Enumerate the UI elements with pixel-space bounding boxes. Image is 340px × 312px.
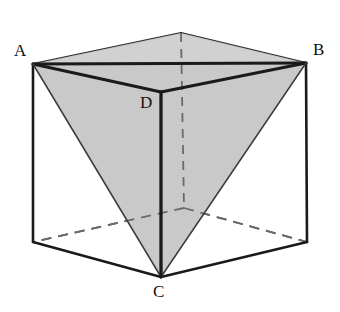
hidden-edge-bottom-right-overlay <box>184 208 307 242</box>
vertex-label-b: B <box>313 41 324 58</box>
tetrahedron-shaded-faces <box>33 33 306 277</box>
vertex-label-c: C <box>153 283 164 300</box>
geometry-figure: A B C D <box>0 0 340 312</box>
cube-edge-bottom-front-left <box>33 242 161 277</box>
tetra-edge-ab <box>33 63 306 64</box>
vertex-label-a: A <box>14 42 26 59</box>
tetrahedron-in-cube-svg <box>0 0 340 312</box>
tetra-face-adb-sliver <box>33 33 306 64</box>
cube-edge-bottom-front-right <box>161 242 307 277</box>
cube-edge-right-vertical <box>306 63 307 242</box>
vertex-label-d: D <box>140 94 152 111</box>
